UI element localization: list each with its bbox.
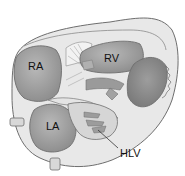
vessel-stub-left [10, 118, 24, 126]
vessel-stub-bottom [50, 158, 60, 170]
septal-muscle [82, 60, 94, 70]
label-ra: RA [28, 60, 44, 72]
right-atrium [14, 46, 61, 102]
label-hlv: HLV [120, 147, 141, 159]
heart-diagram-svg: RA RV LA HLV [0, 0, 185, 176]
label-la: LA [46, 120, 60, 132]
heart-diagram: RA RV LA HLV [0, 0, 185, 176]
label-rv: RV [104, 52, 120, 64]
